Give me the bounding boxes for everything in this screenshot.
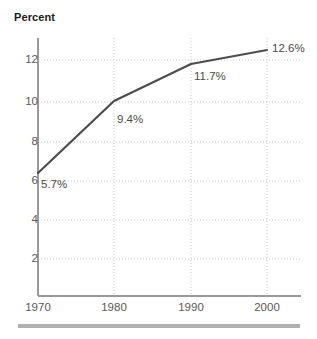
horizontal-gridlines	[38, 60, 300, 259]
xtick-label-1970: 1970	[15, 301, 61, 313]
ytick-label-10: 10	[12, 95, 38, 107]
data-label-1990: 11.7%	[194, 70, 226, 82]
series-line-percent	[38, 50, 267, 173]
data-label-1970: 5.7%	[41, 178, 67, 190]
ytick-label-4: 4	[12, 213, 38, 225]
ytick-label-2: 2	[12, 252, 38, 264]
vertical-gridlines	[114, 38, 267, 296]
data-label-2000: 12.6%	[272, 42, 305, 54]
data-label-1980: 9.4%	[117, 113, 143, 125]
xtick-label-1980: 1980	[91, 301, 137, 313]
ytick-label-6: 6	[12, 174, 38, 186]
ytick-label-8: 8	[12, 135, 38, 147]
line-chart-figure: Percent 12 10 8 6 4 2 1970 1980 1990 200…	[0, 0, 317, 339]
xtick-label-2000: 2000	[244, 301, 290, 313]
ytick-label-12: 12	[12, 53, 38, 65]
bottom-divider-rule	[18, 324, 300, 328]
plot-area	[0, 0, 317, 339]
xtick-label-1990: 1990	[168, 301, 214, 313]
